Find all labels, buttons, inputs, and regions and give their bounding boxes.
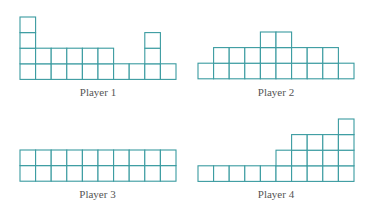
grid-cell	[98, 165, 114, 181]
player-2-label: Player 2	[198, 86, 354, 98]
grid-cell	[20, 165, 36, 181]
grid-cell	[144, 165, 160, 181]
grid-cell	[323, 165, 339, 181]
grid-cell	[260, 63, 276, 79]
grid-cell	[20, 150, 36, 166]
grid-cell	[276, 63, 292, 79]
grid-cell	[323, 63, 339, 79]
grid-cell	[276, 48, 292, 64]
grid-cell	[144, 150, 160, 166]
grid-cell	[36, 48, 52, 64]
grid-cell	[67, 48, 83, 64]
grid-cell	[82, 165, 98, 181]
grid-cell	[129, 165, 145, 181]
grid-cell	[82, 63, 98, 79]
grid-cell	[145, 32, 161, 48]
player-1-block-grid	[19, 16, 177, 80]
grid-cell	[245, 165, 261, 181]
grid-cell	[276, 32, 292, 48]
grid-cell	[214, 48, 230, 64]
grid-cell	[51, 48, 67, 64]
grid-cell	[145, 48, 161, 64]
player-3-block-grid	[19, 149, 177, 182]
grid-cell	[198, 165, 214, 181]
grid-cell	[323, 150, 339, 166]
grid-cell	[292, 134, 308, 150]
grid-cell	[198, 63, 214, 79]
grid-cell	[338, 119, 354, 135]
player-4-block-grid	[197, 118, 355, 182]
grid-cell	[66, 150, 82, 166]
grid-cell	[260, 48, 276, 64]
grid-cell	[51, 165, 67, 181]
grid-cell	[113, 165, 129, 181]
grid-cell	[323, 134, 339, 150]
player-3-label: Player 3	[20, 188, 176, 200]
grid-cell	[36, 63, 52, 79]
grid-cell	[229, 63, 245, 79]
grid-cell	[292, 150, 308, 166]
grid-cell	[129, 150, 145, 166]
grid-cell	[245, 63, 261, 79]
grid-cell	[113, 150, 129, 166]
grid-cell	[20, 48, 36, 64]
grid-cell	[129, 63, 145, 79]
player-2-block-grid	[197, 31, 355, 80]
grid-cell	[276, 165, 292, 181]
grid-cell	[51, 150, 67, 166]
grid-cell	[98, 150, 114, 166]
grid-cell	[307, 150, 323, 166]
grid-cell	[245, 48, 261, 64]
grid-cell	[338, 134, 354, 150]
grid-cell	[114, 63, 130, 79]
grid-cell	[260, 165, 276, 181]
grid-cell	[20, 17, 36, 33]
grid-cell	[82, 150, 98, 166]
grid-cell	[66, 165, 82, 181]
grid-cell	[229, 165, 245, 181]
grid-cell	[82, 48, 98, 64]
grid-cell	[160, 165, 176, 181]
grid-cell	[20, 32, 36, 48]
grid-cell	[338, 150, 354, 166]
grid-cell	[145, 63, 161, 79]
grid-cell	[307, 48, 323, 64]
grid-cell	[35, 150, 51, 166]
grid-cell	[229, 48, 245, 64]
player-4-label: Player 4	[198, 188, 354, 200]
grid-cell	[338, 63, 354, 79]
grid-cell	[338, 165, 354, 181]
grid-cell	[214, 63, 230, 79]
player-1-label: Player 1	[20, 86, 176, 98]
grid-cell	[214, 165, 230, 181]
grid-cell	[307, 165, 323, 181]
grid-cell	[307, 134, 323, 150]
grid-cell	[51, 63, 67, 79]
grid-cell	[292, 165, 308, 181]
grid-cell	[323, 48, 339, 64]
grid-cell	[98, 48, 114, 64]
grid-cell	[35, 165, 51, 181]
grid-cell	[307, 63, 323, 79]
grid-cell	[160, 63, 176, 79]
grid-cell	[67, 63, 83, 79]
grid-cell	[20, 63, 36, 79]
grid-cell	[160, 150, 176, 166]
grid-cell	[98, 63, 114, 79]
grid-cell	[260, 32, 276, 48]
grid-cell	[276, 150, 292, 166]
grid-cell	[292, 63, 308, 79]
grid-cell	[292, 48, 308, 64]
